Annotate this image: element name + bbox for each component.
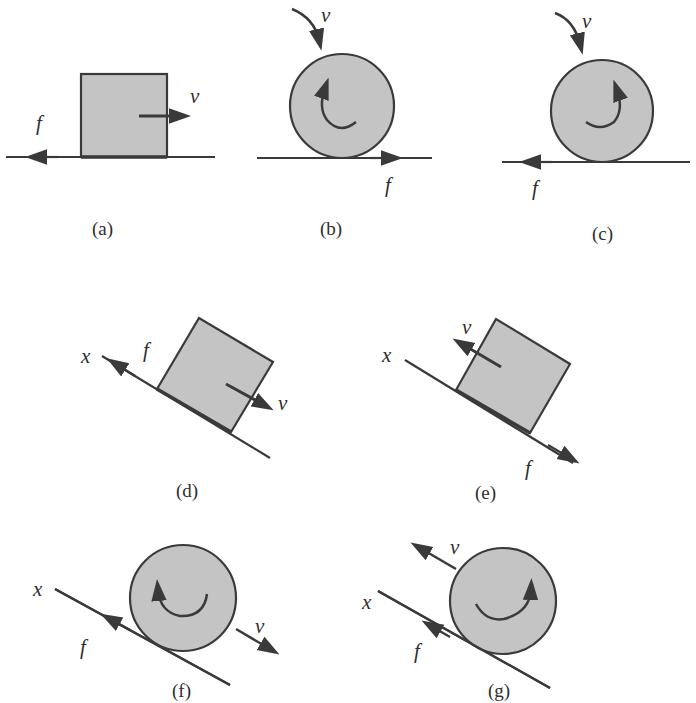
velocity-label: v: [450, 535, 460, 559]
friction-label: f: [525, 456, 534, 480]
friction-label: f: [414, 639, 423, 663]
velocity-label: v: [321, 3, 331, 27]
friction-label: f: [36, 111, 45, 135]
velocity-label: v: [190, 84, 200, 108]
friction-label: f: [385, 173, 394, 197]
panel-caption: (d): [176, 480, 198, 502]
axis-label: x: [381, 343, 392, 367]
friction-diagram-figure: v f (a) v f (b) v f (c): [0, 0, 696, 703]
block: [157, 318, 273, 432]
panel-c: v f (c): [502, 9, 690, 245]
friction-label: f: [80, 635, 89, 659]
panel-caption: (e): [475, 482, 496, 504]
friction-arrow-icon: [110, 619, 130, 630]
velocity-arrow-icon: [236, 629, 270, 649]
velocity-label: v: [255, 614, 265, 638]
wheel: [450, 548, 556, 654]
wheel: [130, 545, 236, 651]
velocity-label: v: [582, 9, 592, 33]
friction-label: f: [143, 338, 152, 362]
panel-e: x v f (e): [381, 315, 573, 504]
panel-caption: (a): [92, 218, 113, 240]
panel-f: v x f (f): [32, 545, 270, 702]
panel-g: v x f (g): [361, 535, 556, 702]
wheel: [551, 60, 653, 162]
block: [456, 319, 570, 433]
friction-arrow-icon: [548, 445, 570, 458]
friction-arrow-icon: [116, 364, 135, 376]
panel-caption: (f): [172, 680, 191, 702]
velocity-arrow-icon: [292, 9, 319, 40]
velocity-arrow-icon: [555, 13, 580, 44]
velocity-label: v: [278, 391, 288, 415]
panel-caption: (b): [320, 218, 342, 240]
friction-arrow-icon: [431, 626, 450, 637]
axis-label: x: [32, 577, 43, 601]
axis-label: x: [361, 590, 372, 614]
axis-label: x: [80, 344, 91, 368]
panel-d: x f v (d): [80, 318, 288, 502]
panel-b: v f (b): [257, 3, 432, 240]
panel-caption: (g): [488, 680, 510, 702]
panel-a: v f (a): [6, 74, 215, 240]
friction-label: f: [532, 176, 541, 200]
panel-caption: (c): [592, 223, 613, 245]
wheel: [290, 54, 394, 158]
velocity-label: v: [462, 315, 472, 339]
